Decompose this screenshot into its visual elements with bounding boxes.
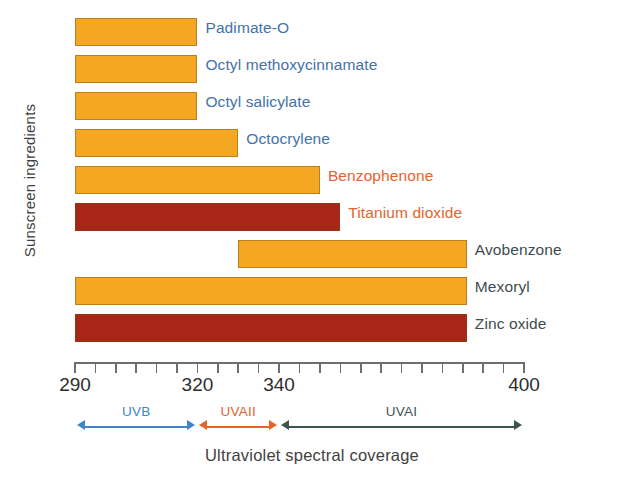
uv-band-line <box>84 426 188 428</box>
x-axis-tick <box>421 362 423 373</box>
arrow-right-icon <box>187 420 195 430</box>
uv-band-label: UVB <box>122 404 151 419</box>
bar[interactable] <box>75 18 197 46</box>
bar[interactable] <box>75 277 467 305</box>
bar[interactable] <box>75 166 320 194</box>
arrow-left-icon <box>77 420 85 430</box>
arrow-left-icon <box>199 420 207 430</box>
arrow-left-icon <box>281 420 289 430</box>
uv-band-label: UVAII <box>220 404 256 419</box>
x-axis-tick <box>237 362 239 373</box>
x-axis-tick <box>462 362 464 373</box>
x-axis-tick-label: 290 <box>59 374 91 396</box>
x-axis-tick <box>135 362 137 373</box>
bar[interactable] <box>75 92 197 120</box>
bar-row: Zinc oxide <box>0 310 624 346</box>
x-axis: 290320340400 <box>0 362 624 408</box>
bar-row: Titanium dioxide <box>0 199 624 235</box>
bar-row: Mexoryl <box>0 273 624 309</box>
x-axis-tick <box>340 362 342 373</box>
bar-label: Titanium dioxide <box>348 204 462 222</box>
x-axis-tick <box>176 362 178 373</box>
uv-band-line <box>206 426 270 428</box>
chart-container: Sunscreen ingredients Padimate-OOctyl me… <box>0 0 624 480</box>
x-axis-tick <box>156 362 158 373</box>
bar-row: Octyl methoxycinnamate <box>0 51 624 87</box>
x-axis-tick <box>319 362 321 373</box>
x-axis-tick <box>278 362 280 373</box>
x-axis-tick <box>503 362 505 373</box>
x-axis-tick <box>217 362 219 373</box>
bar-label: Benzophenone <box>328 167 434 185</box>
uv-band-legend: UVBUVAIIUVAI <box>0 404 624 444</box>
bar-label: Octyl salicylate <box>205 93 310 111</box>
x-axis-tick <box>299 362 301 373</box>
bar[interactable] <box>75 314 467 342</box>
bar-row: Octyl salicylate <box>0 88 624 124</box>
x-axis-tick <box>360 362 362 373</box>
x-axis-tick <box>258 362 260 373</box>
arrow-right-icon <box>269 420 277 430</box>
bar-row: Benzophenone <box>0 162 624 198</box>
x-axis-tick <box>442 362 444 373</box>
x-axis-title: Ultraviolet spectral coverage <box>0 446 624 465</box>
bar-label: Mexoryl <box>475 278 530 296</box>
bar-label: Octocrylene <box>246 130 330 148</box>
uv-band-line <box>288 426 515 428</box>
x-axis-tick-label: 320 <box>182 374 214 396</box>
x-axis-tick <box>380 362 382 373</box>
bar-row: Avobenzone <box>0 236 624 272</box>
x-axis-tick-label: 400 <box>508 374 540 396</box>
bar-label: Octyl methoxycinnamate <box>205 56 377 74</box>
x-axis-tick <box>74 362 76 373</box>
bar[interactable] <box>75 55 197 83</box>
bar-label: Avobenzone <box>475 241 562 259</box>
uv-band-label: UVAI <box>386 404 418 419</box>
x-axis-tick <box>197 362 199 373</box>
bar-row: Padimate-O <box>0 14 624 50</box>
x-axis-tick <box>523 362 525 373</box>
bar[interactable] <box>75 129 238 157</box>
bar[interactable] <box>75 203 340 231</box>
x-axis-tick <box>401 362 403 373</box>
plot-area: Padimate-OOctyl methoxycinnamateOctyl sa… <box>0 0 624 360</box>
x-axis-tick <box>482 362 484 373</box>
bar-label: Padimate-O <box>205 19 289 37</box>
x-axis-tick-label: 340 <box>263 374 295 396</box>
x-axis-tick <box>95 362 97 373</box>
arrow-right-icon <box>514 420 522 430</box>
bar[interactable] <box>238 240 467 268</box>
bar-row: Octocrylene <box>0 125 624 161</box>
bar-label: Zinc oxide <box>475 315 547 333</box>
x-axis-tick <box>115 362 117 373</box>
